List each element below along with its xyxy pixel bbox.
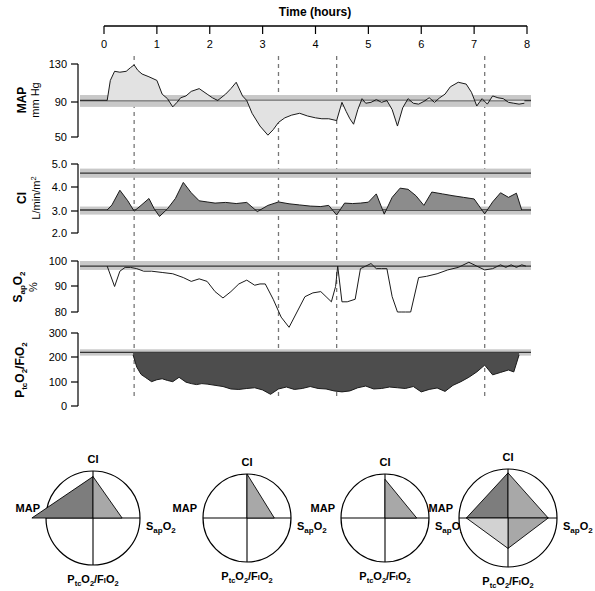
ptco2-part-2: O xyxy=(13,373,27,382)
ptco2-part-6: O xyxy=(13,347,27,356)
y-axis-tick-label: 80 xyxy=(55,306,67,318)
polar-label-sapo2-1-2: 2 xyxy=(171,526,176,535)
sapo2-units-group: % xyxy=(27,282,39,292)
polar-label-sapo2-1: SapO2 xyxy=(146,520,176,535)
data-trace-sapo2 xyxy=(107,262,526,327)
polar-label-ptco2-4-p4: /F xyxy=(509,575,519,587)
polar-label-sapo2-3-ap: ap xyxy=(442,526,451,535)
polar-label-ptco2-3: PtcO2/FIO2 xyxy=(359,570,410,585)
polar-label-ptco2-2: PtcO2/FIO2 xyxy=(221,570,272,585)
y-axis-tick-label: 100 xyxy=(49,255,67,267)
ci-title-group: CI xyxy=(15,192,29,204)
sapo2-o: O xyxy=(11,276,25,285)
ptco2-part-7: 2 xyxy=(20,342,29,347)
y-axis-tick-label: 100 xyxy=(49,376,67,388)
polar-label-sapo2-2-2: 2 xyxy=(322,526,327,535)
polar-label-ptco2-4: PtcO2/FIO2 xyxy=(482,575,533,590)
polar-label-ptco2-1-p0: P xyxy=(67,573,74,585)
polar-label-ptco2-1-p4: /F xyxy=(94,573,104,585)
panel-title-ptco2fio2: PtcO2/FIO2 xyxy=(13,342,29,398)
polar-label-ptco2-2-p1: tc xyxy=(229,576,236,585)
polar-label-ptco2-4-p7: 2 xyxy=(530,581,534,590)
polar-label-ptco2-4-p1: tc xyxy=(490,581,497,590)
panel-units-map: mm Hg xyxy=(29,82,41,117)
polar-label-ptco2-1-p7: 2 xyxy=(115,579,119,588)
polar-label-sapo2-4: SapO2 xyxy=(563,520,593,535)
time-axis-tick-label: 6 xyxy=(418,38,424,50)
polar-label-map-4: MAP xyxy=(429,502,453,514)
y-axis-tick-label: 90 xyxy=(55,280,67,292)
polar-label-sapo2-2-s: S xyxy=(297,520,304,532)
polar-label-ci-2: CI xyxy=(242,456,253,468)
polar-label-sapo2-1-ap: ap xyxy=(153,526,162,535)
ptco2-part-4: /F xyxy=(13,358,27,369)
polar-label-ci-1: CI xyxy=(88,453,99,465)
ci-units-group: L/min/m2 xyxy=(29,176,42,219)
y-axis-tick-label: 300 xyxy=(49,327,67,339)
polar-label-sapo2-3-s: S xyxy=(435,520,442,532)
polar-label-sapo2-4-s: S xyxy=(563,520,570,532)
time-axis-tick-label: 5 xyxy=(365,38,371,50)
polar-label-sapo2-4-2: 2 xyxy=(588,526,593,535)
polar-chart-2: CIMAPSapO2PtcO2/FIO2 xyxy=(173,456,328,585)
time-axis: Time (hours)012345678 xyxy=(101,5,530,50)
polar-label-ptco2-3-p0: P xyxy=(359,570,366,582)
polar-label-ptco2-4-p0: P xyxy=(482,575,489,587)
time-axis-tick-label: 2 xyxy=(207,38,213,50)
polar-label-ptco2-1: PtcO2/FIO2 xyxy=(67,573,118,588)
polar-label-ptco2-2-p4: /F xyxy=(248,570,258,582)
y-axis-tick-label: 5.0 xyxy=(52,158,67,170)
ci-units-main: L/min/m xyxy=(30,181,42,220)
data-area-ptco2fio2 xyxy=(133,352,519,394)
polar-label-sapo2-2: SapO2 xyxy=(297,520,327,535)
y-axis-tick-label: 130 xyxy=(49,58,67,70)
sapo2-s: S xyxy=(11,295,25,303)
y-axis-tick-label: 3.0 xyxy=(52,205,67,217)
polar-label-map-1: MAP xyxy=(16,502,40,514)
polar-label-ptco2-3-p4: /F xyxy=(386,570,396,582)
polar-label-ci-4: CI xyxy=(503,451,514,463)
panel-ci: 5.04.03.02.0 xyxy=(52,158,531,239)
y-axis-tick-label: 200 xyxy=(49,351,67,363)
map-units-group: mm Hg xyxy=(29,82,41,117)
polar-chart-1: CIMAPSapO2PtcO2/FIO2 xyxy=(16,453,177,588)
polar-label-sapo2-4-ap: ap xyxy=(570,526,579,535)
polar-label-ptco2-2-p0: P xyxy=(221,570,228,582)
ci-units-sup: 2 xyxy=(29,176,38,180)
y-axis-tick-label: 4.0 xyxy=(52,181,67,193)
ptco2-part-0: P xyxy=(13,390,27,398)
polar-label-map-3: MAP xyxy=(311,502,335,514)
panel-title-ci: CI xyxy=(15,192,29,204)
time-axis-tick-label: 3 xyxy=(260,38,266,50)
time-axis-title: Time (hours) xyxy=(279,5,351,19)
time-axis-tick-label: 0 xyxy=(101,38,107,50)
sapo2-ap: ap xyxy=(18,285,27,294)
panel-title-sapo2: SapO2 xyxy=(11,271,27,303)
map-title-group: MAP xyxy=(15,87,29,114)
time-axis-tick-label: 8 xyxy=(524,38,530,50)
y-axis-tick-label: 0 xyxy=(61,400,67,412)
polar-label-sapo2-1-s: S xyxy=(146,520,153,532)
time-axis-tick-label: 4 xyxy=(312,38,318,50)
ptco2fio2-title-group: PtcO2/FIO2 xyxy=(13,342,29,398)
polar-label-ptco2-1-p1: tc xyxy=(75,579,82,588)
y-axis-tick-label: 90 xyxy=(55,96,67,108)
y-axis-tick-label: 50 xyxy=(55,131,67,143)
time-axis-tick-label: 7 xyxy=(471,38,477,50)
polar-label-ci-3: CI xyxy=(380,456,391,468)
polar-label-map-2: MAP xyxy=(173,502,197,514)
y-axis-tick-label: 2.0 xyxy=(52,227,67,239)
sapo2-2: 2 xyxy=(18,271,27,276)
time-axis-tick-label: 1 xyxy=(154,38,160,50)
panel-ptco2fio2: 3002001000 xyxy=(49,327,531,412)
polar-label-sapo2-2-ap: ap xyxy=(304,526,313,535)
sapo2-title-group: SapO2 xyxy=(11,271,27,303)
physiologic-monitoring-figure: Time (hours)01234567813090505.04.03.02.0… xyxy=(0,0,595,591)
polar-label-ptco2-3-p7: 2 xyxy=(407,576,411,585)
figure-canvas: Time (hours)01234567813090505.04.03.02.0… xyxy=(0,0,595,591)
polar-label-ptco2-3-p1: tc xyxy=(367,576,374,585)
panel-units-sapo2: % xyxy=(27,282,39,292)
panel-units-ci: L/min/m2 xyxy=(29,176,42,219)
polar-label-ptco2-2-p7: 2 xyxy=(269,576,273,585)
panel-map: 1309050 xyxy=(49,58,531,143)
